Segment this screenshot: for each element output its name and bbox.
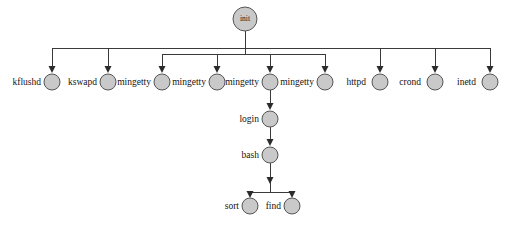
node-find[interactable]: find (266, 198, 300, 214)
node-crond[interactable]: crond (399, 74, 443, 90)
arrowhead-mingetty1 (159, 66, 166, 73)
node-sort-circle[interactable] (242, 198, 258, 214)
node-kflushd-circle[interactable] (44, 74, 60, 90)
node-kswapd[interactable]: kswapd (68, 74, 116, 90)
node-mingetty1[interactable]: mingetty (117, 74, 170, 90)
node-crond-circle[interactable] (427, 74, 443, 90)
process-tree-canvas: init kflushd kswapd mingetty mingetty (0, 0, 509, 226)
node-find-label: find (266, 201, 282, 211)
arrowhead-kswapd (105, 66, 112, 73)
node-find-circle[interactable] (284, 198, 300, 214)
node-mingetty3-circle[interactable] (262, 74, 278, 90)
arrowhead-bash (267, 139, 274, 146)
node-bash-circle[interactable] (262, 147, 278, 163)
arrowhead-mingetty2 (214, 66, 221, 73)
node-login-label: login (239, 114, 259, 124)
node-mingetty2-label: mingetty (172, 77, 206, 87)
node-kflushd-label: kflushd (13, 77, 42, 87)
node-init[interactable]: init (233, 7, 257, 31)
node-kswapd-circle[interactable] (100, 74, 116, 90)
arrowhead-mingetty4 (322, 66, 329, 73)
node-mingetty1-circle[interactable] (154, 74, 170, 90)
node-httpd[interactable]: httpd (346, 74, 388, 90)
node-crond-label: crond (399, 77, 421, 87)
arrowhead-mingetty3 (267, 66, 274, 73)
node-mingetty1-label: mingetty (117, 77, 151, 87)
node-httpd-label: httpd (346, 77, 366, 87)
node-inetd-circle[interactable] (482, 74, 498, 90)
arrowhead-kflushd (49, 66, 56, 73)
arrowhead-httpd (377, 66, 384, 73)
arrowhead-sort (247, 191, 254, 198)
node-mingetty4-label: mingetty (280, 77, 314, 87)
arrowhead-bash-stem (267, 177, 274, 184)
node-login-circle[interactable] (262, 111, 278, 127)
node-mingetty3[interactable]: mingetty (225, 74, 278, 90)
node-mingetty2-circle[interactable] (209, 74, 225, 90)
node-kflushd[interactable]: kflushd (13, 74, 61, 90)
node-mingetty4-circle[interactable] (317, 74, 333, 90)
node-sort-label: sort (225, 201, 240, 211)
node-init-label: init (240, 14, 251, 23)
process-tree-diagram: init kflushd kswapd mingetty mingetty (0, 0, 509, 226)
arrowhead-find (289, 191, 296, 198)
arrowhead-inetd (487, 66, 494, 73)
node-mingetty3-label: mingetty (225, 77, 259, 87)
node-layer: init kflushd kswapd mingetty mingetty (13, 7, 499, 214)
node-kswapd-label: kswapd (68, 77, 97, 87)
node-login[interactable]: login (239, 111, 278, 127)
node-inetd[interactable]: inetd (457, 74, 498, 90)
node-mingetty4[interactable]: mingetty (280, 74, 333, 90)
node-bash-label: bash (242, 150, 260, 160)
node-mingetty2[interactable]: mingetty (172, 74, 225, 90)
arrowhead-login (267, 103, 274, 110)
arrowhead-crond (432, 66, 439, 73)
node-bash[interactable]: bash (242, 147, 278, 163)
node-httpd-circle[interactable] (372, 74, 388, 90)
node-sort[interactable]: sort (225, 198, 258, 214)
node-inetd-label: inetd (457, 77, 476, 87)
